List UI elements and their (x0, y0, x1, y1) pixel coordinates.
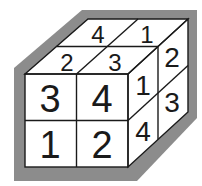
front-cell-bottom-left: 1 (39, 124, 60, 166)
front-cell-bottom-right: 2 (91, 124, 112, 166)
top-cell-front-right: 3 (108, 49, 121, 76)
front-cell-top-left: 3 (39, 78, 60, 120)
right-cell-top-back: 2 (164, 42, 180, 73)
top-cell-back-left: 4 (91, 21, 104, 48)
right-cell-bottom-back: 3 (164, 87, 180, 118)
right-cell-bottom-front: 4 (135, 116, 151, 147)
right-cell-top-front: 1 (135, 70, 151, 101)
top-cell-back-right: 1 (140, 21, 153, 48)
top-cell-front-left: 2 (60, 49, 73, 76)
front-cell-top-right: 4 (91, 78, 112, 120)
cube-diagram: 3 4 1 2 4 1 2 3 1 2 4 3 (0, 0, 202, 186)
